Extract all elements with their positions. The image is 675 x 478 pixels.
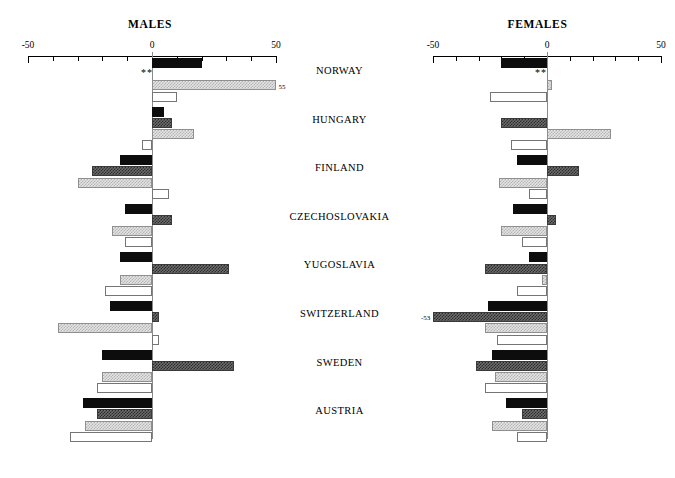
bar-norway-series-4 <box>490 92 547 102</box>
bar-yugoslavia-series-2 <box>152 264 229 274</box>
panel-title-males: MALES <box>0 18 300 30</box>
plot-area-females: **-53 <box>433 56 661 439</box>
panel-males: MALES -50050 **55 <box>0 0 300 478</box>
bar-yugoslavia-series-3 <box>542 275 547 285</box>
bar-sweden-series-2 <box>476 361 547 371</box>
bar-yugoslavia-series-4 <box>517 286 547 296</box>
axis-tick <box>661 56 662 63</box>
bar-finland-series-3 <box>78 178 152 188</box>
paired-bar-chart-figure: MALES -50050 **55 NORWAYHUNGARYFINLANDCZ… <box>0 0 675 478</box>
panel-females: FEMALES -50050 **-53 <box>400 0 675 478</box>
axis-tick <box>276 56 277 63</box>
bar-hungary-series-3 <box>152 129 194 139</box>
bar-norway-series-4 <box>152 92 177 102</box>
bar-czechoslovakia-series-4 <box>522 237 547 247</box>
category-label-czechoslovakia: CZECHOSLOVAKIA <box>262 211 417 222</box>
bar-austria-series-3 <box>492 421 547 431</box>
bar-switzerland-series-2 <box>433 312 547 322</box>
bar-yugoslavia-series-4 <box>105 286 152 296</box>
axis-tick-label: 0 <box>150 40 155 50</box>
bar-switzerland-series-2 <box>152 312 159 322</box>
bar-sweden-series-1 <box>102 350 152 360</box>
category-label-finland: FINLAND <box>262 162 417 173</box>
bar-yugoslavia-series-2 <box>485 264 547 274</box>
bar-austria-series-1 <box>83 398 152 408</box>
bar-austria-series-4 <box>70 432 152 442</box>
bar-finland-series-3 <box>499 178 547 188</box>
bar-finland-series-1 <box>517 155 547 165</box>
bar-finland-series-1 <box>120 155 152 165</box>
bar-czechoslovakia-series-4 <box>125 237 152 247</box>
bar-austria-series-2 <box>522 409 547 419</box>
category-label-yugoslavia: YUGOSLAVIA <box>262 259 417 270</box>
bar-switzerland-series-4 <box>152 335 159 345</box>
bar-finland-series-4 <box>152 189 169 199</box>
axis-tick-label: 50 <box>271 40 281 50</box>
bar-finland-series-4 <box>529 189 547 199</box>
bar-hungary-series-3 <box>547 129 611 139</box>
bar-norway-series-1 <box>152 58 202 68</box>
axis-tick-label: -50 <box>427 40 440 50</box>
bar-value-label: 55 <box>279 83 286 91</box>
bar-hungary-series-4 <box>511 140 547 150</box>
category-label-norway: NORWAY <box>262 65 417 76</box>
bar-switzerland-series-1 <box>488 301 547 311</box>
bar-switzerland-series-4 <box>497 335 547 345</box>
category-label-switzerland: SWITZERLAND <box>262 308 417 319</box>
bar-finland-series-2 <box>547 166 579 176</box>
bar-yugoslavia-series-1 <box>120 252 152 262</box>
axis-tick-label: -50 <box>22 40 35 50</box>
bar-austria-series-1 <box>506 398 547 408</box>
bar-sweden-series-2 <box>152 361 234 371</box>
bar-austria-series-3 <box>85 421 152 431</box>
bar-czechoslovakia-series-2 <box>152 215 172 225</box>
significance-marker: ** <box>141 70 153 76</box>
bar-czechoslovakia-series-3 <box>112 226 152 236</box>
bar-hungary-series-1 <box>152 107 164 117</box>
bar-norway-series-3 <box>547 80 552 90</box>
category-label-austria: AUSTRIA <box>262 405 417 416</box>
category-label-hungary: HUNGARY <box>262 114 417 125</box>
bar-norway-series-3 <box>152 80 276 90</box>
zero-reference-line <box>547 52 548 439</box>
bar-sweden-series-1 <box>492 350 547 360</box>
bar-sweden-series-3 <box>495 372 547 382</box>
panel-title-females: FEMALES <box>400 18 675 30</box>
bar-czechoslovakia-series-2 <box>547 215 556 225</box>
bar-value-label: -53 <box>421 314 430 322</box>
category-label-sweden: SWEDEN <box>262 357 417 368</box>
bar-switzerland-series-3 <box>58 323 152 333</box>
bar-yugoslavia-series-1 <box>529 252 547 262</box>
bar-czechoslovakia-series-1 <box>125 204 152 214</box>
significance-marker: ** <box>535 70 547 76</box>
bar-czechoslovakia-series-3 <box>501 226 547 236</box>
bar-yugoslavia-series-3 <box>120 275 152 285</box>
bar-switzerland-series-3 <box>485 323 547 333</box>
bar-switzerland-series-1 <box>110 301 152 311</box>
bar-czechoslovakia-series-1 <box>513 204 547 214</box>
plot-area-males: **55 <box>28 56 276 439</box>
bar-hungary-series-2 <box>501 118 547 128</box>
bar-austria-series-2 <box>97 409 152 419</box>
axis-tick-label: 50 <box>656 40 666 50</box>
bar-sweden-series-4 <box>485 383 547 393</box>
bar-sweden-series-4 <box>97 383 152 393</box>
bar-austria-series-4 <box>517 432 547 442</box>
bar-hungary-series-2 <box>152 118 172 128</box>
bar-hungary-series-4 <box>142 140 152 150</box>
bar-finland-series-2 <box>92 166 152 176</box>
axis-tick-label: 0 <box>545 40 550 50</box>
bar-sweden-series-3 <box>102 372 152 382</box>
